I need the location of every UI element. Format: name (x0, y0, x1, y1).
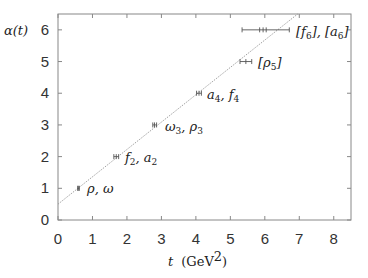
x-tick-label: 3 (157, 230, 165, 247)
label-omega3-rho3: ω3, ρ3 (165, 119, 203, 136)
x-axis-unit: (GeV (181, 254, 214, 269)
y-tick-label: 2 (41, 148, 49, 165)
label-rho-omega: ρ, ω (86, 181, 114, 196)
x-axis-unit-superscript: 2 (214, 249, 222, 264)
label-subscript: 2 (152, 157, 158, 167)
x-axis-label: t (GeV2) (168, 249, 227, 269)
x-axis-variable: t (168, 254, 174, 269)
x-tick-label: 6 (261, 230, 269, 247)
trajectory-fit-line (58, 14, 298, 204)
y-tick-label: 3 (41, 116, 49, 133)
label-part: ω (165, 119, 176, 134)
y-tick-label: 1 (41, 179, 49, 196)
x-tick-label: 8 (330, 230, 338, 247)
label-f2-a2: f2, a2 (124, 150, 157, 167)
label-part: ] (275, 55, 282, 70)
y-tick-label: 4 (41, 84, 49, 101)
label-part: ] (343, 24, 350, 39)
label-a4-f4: a4, f4 (207, 87, 240, 104)
label-f6-a6: [f6], [a6] (296, 24, 350, 41)
y-tick-label: 6 (41, 21, 49, 38)
x-tick-label: 7 (295, 230, 303, 247)
label-subscript: 3 (197, 126, 203, 136)
label-subscript: 4 (234, 94, 240, 104)
label-part: , ρ (181, 119, 197, 134)
x-tick-label: 1 (88, 230, 96, 247)
x-tick-label: 0 (54, 230, 62, 247)
label-part: ], [a (311, 24, 338, 39)
y-tick-label: 5 (41, 53, 49, 70)
label-part: a (207, 87, 215, 102)
label-part: , a (136, 150, 152, 165)
x-axis-unit-close: ) (222, 254, 227, 269)
y-tick-label: 0 (41, 211, 49, 228)
x-tick-label: 5 (226, 230, 234, 247)
label-text: ρ, ω (86, 181, 114, 196)
regge-trajectory-chart: 012345678 0123456 α(t) t (GeV2) ρ, ω f2,… (0, 0, 368, 278)
data-markers (78, 27, 290, 190)
y-axis-label: α(t) (4, 23, 28, 38)
y-axis-label-text: α(t) (4, 23, 28, 38)
label-rho5: [ρ5] (258, 55, 282, 72)
label-part: [ρ (258, 55, 271, 70)
x-tick-label: 4 (192, 230, 200, 247)
x-tick-label: 2 (123, 230, 131, 247)
